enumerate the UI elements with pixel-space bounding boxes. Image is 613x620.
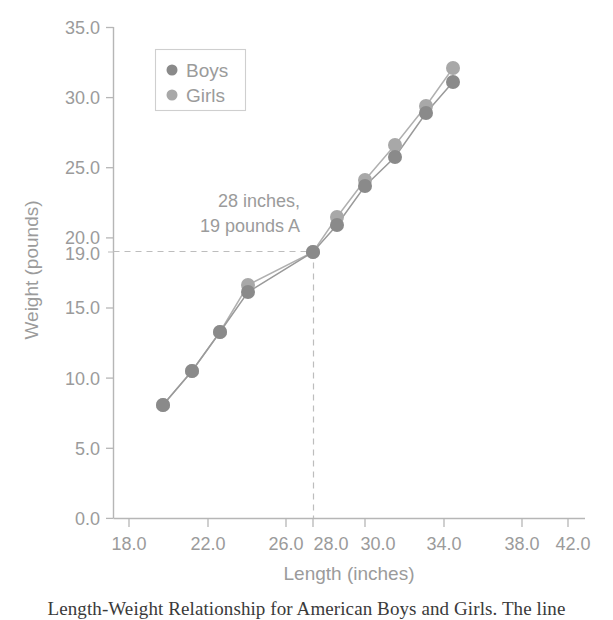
x-tick-label: 26.0 [268,534,303,554]
x-tick-label: 38.0 [504,534,539,554]
guide-lines [114,252,314,519]
data-point [156,398,170,412]
x-axis-ticks [129,519,568,528]
y-tick-label: 0.0 [75,509,100,529]
y-axis-title: Weight (pounds) [21,200,42,339]
data-point [213,325,227,339]
y-tick-label: 10.0 [65,369,100,389]
data-point [185,364,199,378]
legend-marker-boys-icon [167,65,178,76]
y-axis-ticks [106,28,114,519]
y-tick-label: 15.0 [65,298,100,318]
data-point [419,106,433,120]
data-point [306,245,320,259]
x-tick-label: 42.0 [555,534,590,554]
x-tick-label: 34.0 [426,534,461,554]
x-axis-title: Length (inches) [284,563,415,584]
x-tick-label: 30.0 [360,534,395,554]
data-point [358,179,372,193]
y-axis-tick-labels: 35.0 30.0 25.0 20.0 19.0 15.0 10.0 5.0 0… [65,18,100,529]
data-point [446,61,460,75]
figure-caption: Length-Weight Relationship for American … [0,598,613,620]
y-tick-label: 25.0 [65,158,100,178]
y-tick-label-19: 19.0 [65,244,100,264]
legend-label-girls[interactable]: Girls [186,85,225,106]
series-line-girls [163,68,453,405]
y-tick-label: 5.0 [75,439,100,459]
data-point [388,150,402,164]
data-point [241,285,255,299]
x-tick-label-28: 28.0 [313,534,348,554]
data-point [446,75,460,89]
legend-label-boys[interactable]: Boys [186,60,228,81]
data-points-boys [156,75,460,412]
data-point [330,218,344,232]
callout-line-1: 28 inches, [218,191,300,211]
y-tick-label: 35.0 [65,18,100,38]
data-points-girls [156,61,460,412]
series-lines [163,68,453,405]
callout-line-2: 19 pounds A [200,216,300,236]
series-line-boys [163,82,453,405]
legend-marker-girls-icon [167,90,178,101]
point-a-callout: 28 inches, 19 pounds A [200,191,300,236]
y-tick-label: 30.0 [65,88,100,108]
x-tick-label: 18.0 [111,534,146,554]
legend[interactable]: Boys Girls [156,50,246,111]
x-tick-label: 22.0 [190,534,225,554]
data-point [388,138,402,152]
x-axis-tick-labels: 18.0 22.0 26.0 28.0 30.0 34.0 38.0 42.0 [111,534,590,554]
